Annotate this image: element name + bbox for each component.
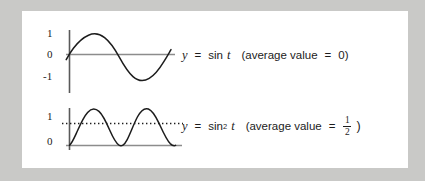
sine-squared-plot-canvas xyxy=(22,11,408,168)
sine-squared-plot-equation: y = sin2 t (average value = 1 2 ) xyxy=(182,116,361,137)
sine-squared-eq-equals: = xyxy=(195,121,202,133)
figure-card: 1 0 -1 y = sin t (average value xyxy=(22,11,408,168)
sine-squared-eq-note-open: (average value xyxy=(246,121,322,133)
fraction-denominator: 2 xyxy=(344,128,351,138)
sine-squared-eq-note-close: ) xyxy=(356,120,360,133)
sine-squared-curve xyxy=(70,109,176,146)
sine-squared-eq-variable: t xyxy=(231,120,234,133)
sine-squared-eq-function: sin xyxy=(208,121,223,133)
sine-squared-eq-note-equals: = xyxy=(329,121,336,133)
average-value-fraction: 1 2 xyxy=(343,116,351,137)
sine-squared-eq-lhs: y xyxy=(182,120,188,133)
fraction-numerator: 1 xyxy=(344,116,351,126)
figure-root: 1 0 -1 y = sin t (average value xyxy=(0,0,425,181)
